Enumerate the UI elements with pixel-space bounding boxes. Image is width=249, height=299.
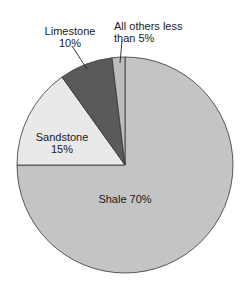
label-shale: Shale 70% — [95, 193, 155, 205]
leader-limestone — [72, 46, 87, 69]
label-others-line2: than 5% — [114, 32, 190, 44]
label-sandstone-value: 15% — [34, 143, 90, 155]
label-limestone-value: 10% — [44, 37, 96, 49]
label-others-line1: All others less — [114, 20, 190, 32]
label-sandstone-name: Sandstone — [34, 131, 90, 143]
label-others: All others less than 5% — [114, 20, 190, 44]
label-limestone-name: Limestone — [44, 25, 96, 37]
label-limestone: Limestone 10% — [44, 25, 96, 49]
label-shale-text: Shale 70% — [98, 193, 151, 205]
label-sandstone: Sandstone 15% — [34, 131, 90, 155]
